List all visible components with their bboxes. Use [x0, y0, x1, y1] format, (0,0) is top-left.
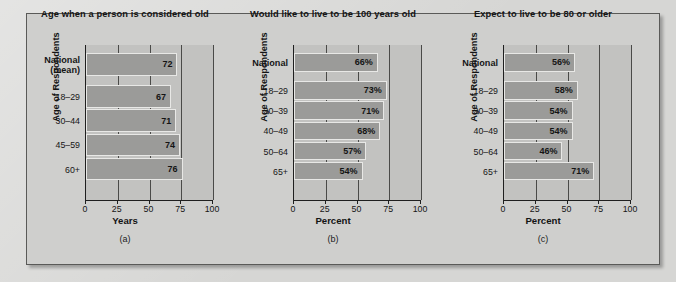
- category-labels-b: National18–2930–3940–4950–6465+: [238, 45, 288, 200]
- category-label-a-0: National(mean): [44, 55, 80, 76]
- category-label-a-4: 60+: [65, 165, 80, 176]
- bar-c-0: 56%: [504, 53, 575, 72]
- chart-panel-b: Would like to live to be 100 years oldAg…: [238, 0, 428, 252]
- x-tick-label-0: 0: [281, 204, 305, 214]
- category-label-a-1: 18–29: [56, 92, 80, 103]
- x-tick-label-75: 75: [586, 204, 610, 214]
- category-label-b-1: 18–29: [264, 86, 288, 97]
- category-labels-c: National18–2930–3940–4950–6465+: [448, 45, 498, 200]
- chart-panel-c: Expect to live to be 80 or olderAge of R…: [448, 0, 638, 252]
- bar-b-3: 68%: [294, 122, 380, 141]
- x-tick-label-25: 25: [313, 204, 337, 214]
- x-tick-label-100: 100: [200, 204, 224, 214]
- chart-panel-a: Age when a person is considered oldAge o…: [30, 0, 220, 252]
- bar-value-label: 71%: [571, 166, 593, 176]
- bar-c-4: 46%: [504, 142, 562, 161]
- x-tick-label-25: 25: [523, 204, 547, 214]
- category-label-b-4: 50–64: [264, 147, 288, 158]
- category-label-a-2: 30–44: [56, 116, 80, 127]
- bar-value-label: 56%: [552, 57, 574, 67]
- category-label-b-2: 30–39: [264, 106, 288, 117]
- plot-area-a: 7267717476: [85, 45, 213, 201]
- bar-c-1: 58%: [504, 81, 578, 100]
- x-tick-label-0: 0: [491, 204, 515, 214]
- bar-c-2: 54%: [504, 101, 573, 120]
- x-tick-label-100: 100: [408, 204, 432, 214]
- x-tick-label-75: 75: [376, 204, 400, 214]
- bar-value-label: 68%: [357, 126, 379, 136]
- plot-area-b: 66%73%71%68%57%54%: [293, 45, 421, 201]
- bar-value-label: 58%: [555, 85, 577, 95]
- category-label-c-5: 65+: [483, 167, 498, 178]
- gridline-100: [213, 45, 214, 200]
- x-tick-label-50: 50: [555, 204, 579, 214]
- bar-b-5: 54%: [294, 162, 363, 181]
- category-label-c-4: 50–64: [474, 147, 498, 158]
- plot-area-c: 56%58%54%54%46%71%: [503, 45, 631, 201]
- category-label-line-2: (mean): [44, 65, 80, 76]
- bar-a-2: 71: [86, 109, 176, 132]
- bar-value-label: 46%: [539, 146, 561, 156]
- category-label-c-1: 18–29: [474, 86, 498, 97]
- x-axis-label-a: Years: [30, 215, 220, 226]
- bar-value-label: 71%: [361, 106, 383, 116]
- x-tick-label-50: 50: [345, 204, 369, 214]
- category-label-c-2: 30–39: [474, 106, 498, 117]
- bar-a-1: 67: [86, 85, 171, 108]
- gridline-100: [631, 45, 632, 200]
- category-label-c-3: 40–49: [474, 126, 498, 137]
- category-label-b-0: National: [252, 58, 288, 69]
- bar-value-label: 54%: [340, 166, 362, 176]
- bar-value-label: 74: [165, 140, 179, 150]
- x-axis-label-c: Percent: [448, 215, 638, 226]
- bar-value-label: 54%: [550, 106, 572, 116]
- bar-c-3: 54%: [504, 122, 573, 141]
- bar-a-4: 76: [86, 158, 183, 181]
- x-tick-label-50: 50: [137, 204, 161, 214]
- bar-a-3: 74: [86, 134, 180, 157]
- gridline-75: [599, 45, 600, 200]
- panel-caption-b: (b): [238, 234, 428, 244]
- bar-b-4: 57%: [294, 142, 366, 161]
- bar-value-label: 76: [168, 164, 182, 174]
- bar-value-label: 72: [162, 59, 176, 69]
- category-label-c-0: National: [462, 58, 498, 69]
- x-axis-label-b: Percent: [238, 215, 428, 226]
- category-label-a-3: 45–59: [56, 140, 80, 151]
- bar-value-label: 54%: [550, 126, 572, 136]
- x-tick-label-100: 100: [618, 204, 642, 214]
- category-label-b-3: 40–49: [264, 126, 288, 137]
- panel-caption-c: (c): [448, 234, 638, 244]
- category-label-line-1: National: [44, 55, 80, 66]
- bar-b-1: 73%: [294, 81, 387, 100]
- bar-value-label: 66%: [355, 57, 377, 67]
- x-tick-label-25: 25: [105, 204, 129, 214]
- x-tick-label-0: 0: [73, 204, 97, 214]
- gridline-100: [421, 45, 422, 200]
- panel-caption-a: (a): [30, 234, 220, 244]
- bar-b-2: 71%: [294, 101, 384, 120]
- bar-b-0: 66%: [294, 53, 378, 72]
- category-label-b-5: 65+: [273, 167, 288, 178]
- x-tick-label-75: 75: [168, 204, 192, 214]
- bar-value-label: 67: [156, 92, 170, 102]
- bar-value-label: 57%: [343, 146, 365, 156]
- category-labels-a: National(mean)18–2930–4445–5960+: [30, 45, 80, 200]
- bar-a-0: 72: [86, 53, 177, 76]
- bar-c-5: 71%: [504, 162, 594, 181]
- gridline-75: [389, 45, 390, 200]
- bar-value-label: 73%: [364, 85, 386, 95]
- bar-value-label: 71: [161, 116, 175, 126]
